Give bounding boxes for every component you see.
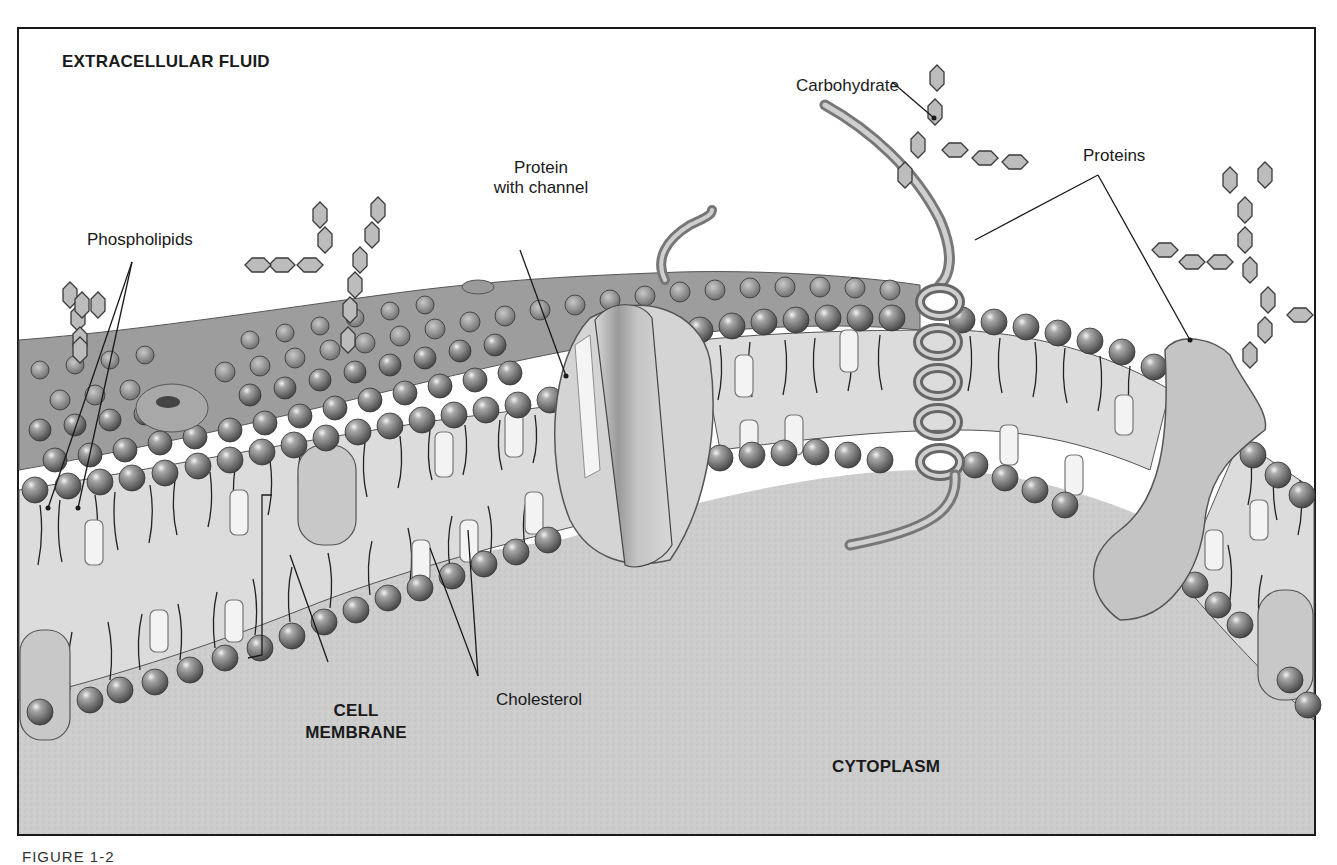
label-membrane: MEMBRANE xyxy=(296,722,416,744)
label-cell: CELL xyxy=(296,700,416,722)
label-protein-line2: with channel xyxy=(486,178,596,198)
label-extracellular-fluid: EXTRACELLULAR FLUID xyxy=(62,52,270,72)
label-proteins: Proteins xyxy=(1083,146,1145,166)
label-protein-line1: Protein xyxy=(486,158,596,178)
surface-protein-pore xyxy=(136,384,208,432)
label-carbohydrate: Carbohydrate xyxy=(796,76,899,96)
label-protein-with-channel: Protein with channel xyxy=(486,158,596,198)
embedded-protein-mid xyxy=(298,445,356,545)
label-phospholipids: Phospholipids xyxy=(87,230,193,250)
label-cholesterol: Cholesterol xyxy=(496,690,582,710)
label-cell-membrane: CELL MEMBRANE xyxy=(296,700,416,744)
label-cytoplasm: CYTOPLASM xyxy=(832,757,940,777)
figure-caption: FIGURE 1-2 xyxy=(22,848,115,865)
